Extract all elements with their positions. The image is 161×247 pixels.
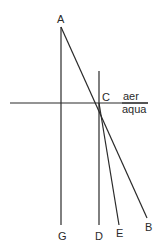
label-c: C [102, 91, 110, 103]
refraction-diagram: A C aer aqua B E D G [0, 0, 161, 247]
line-ce [99, 103, 119, 225]
label-e: E [116, 227, 123, 239]
label-a: A [57, 13, 65, 25]
label-aer: aer [123, 90, 139, 102]
label-d: D [95, 230, 103, 242]
label-aqua: aqua [122, 103, 147, 115]
line-ab [61, 27, 147, 218]
label-g: G [58, 230, 67, 242]
label-b: B [145, 221, 152, 233]
